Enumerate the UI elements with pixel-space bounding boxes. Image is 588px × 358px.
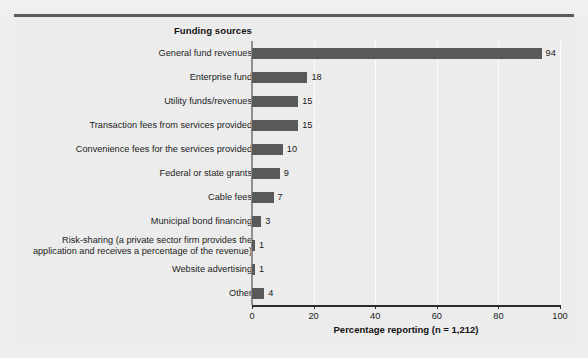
bar-value-label: 1 — [259, 264, 264, 275]
category-label: Cable fees — [208, 192, 252, 203]
bar[interactable] — [252, 72, 307, 83]
bar[interactable] — [252, 120, 298, 131]
chart-figure: uu uu u uu uu Funding sources General fu… — [0, 0, 588, 358]
x-axis-title: Percentage reporting (n = 1,212) — [252, 324, 560, 335]
category-label-column: Funding sources General fund revenuesEnt… — [14, 17, 252, 342]
bar-value-label: 15 — [302, 120, 312, 131]
gridline — [498, 41, 499, 305]
bar[interactable] — [252, 240, 255, 251]
chart-panel: Funding sources General fund revenuesEnt… — [14, 17, 574, 342]
bar-value-label: 9 — [284, 168, 289, 179]
axis-tick — [437, 305, 438, 309]
bar[interactable] — [252, 216, 261, 227]
axis-tick-label: 40 — [370, 311, 380, 321]
bar-value-label: 15 — [302, 96, 312, 107]
bar[interactable] — [252, 144, 283, 155]
axis-tick — [375, 305, 376, 309]
bar[interactable] — [252, 48, 542, 59]
bar[interactable] — [252, 264, 255, 275]
bar-value-label: 3 — [265, 216, 270, 227]
category-label: Transaction fees from services provided — [89, 120, 252, 131]
gridline — [437, 41, 438, 305]
bar-value-label: 10 — [287, 144, 297, 155]
bar-value-label: 1 — [259, 240, 264, 251]
category-label: Convenience fees for the services provid… — [76, 144, 252, 155]
bar-value-label: 7 — [278, 192, 283, 203]
category-label: Enterprise fund — [190, 72, 252, 83]
axis-tick-label: 20 — [308, 311, 318, 321]
axis-tick-label: 100 — [552, 311, 567, 321]
axis-tick-label: 0 — [249, 311, 254, 321]
bar-value-label: 4 — [268, 288, 273, 299]
value-axis-line — [252, 305, 560, 307]
category-label: Risk-sharing (a private sector firm prov… — [33, 235, 252, 256]
bar[interactable] — [252, 96, 298, 107]
category-label: Other — [229, 288, 252, 299]
axis-tick-label: 80 — [493, 311, 503, 321]
gridline — [560, 41, 561, 305]
plot-area: 9418151510973114 — [252, 41, 560, 305]
bar[interactable] — [252, 168, 280, 179]
axis-tick — [252, 305, 253, 309]
bar-value-label: 18 — [311, 72, 321, 83]
axis-tick — [314, 305, 315, 309]
gridline — [375, 41, 376, 305]
cut-off-caption-sliver: uu uu u uu uu — [0, 0, 588, 13]
axis-tick — [560, 305, 561, 309]
axis-tick — [498, 305, 499, 309]
axis-tick-label: 60 — [432, 311, 442, 321]
category-label: Municipal bond financing — [151, 216, 252, 227]
bar[interactable] — [252, 192, 274, 203]
category-axis-title: Funding sources — [174, 25, 252, 36]
category-label: General fund revenues — [159, 48, 252, 59]
category-label: Website advertising — [172, 264, 252, 275]
category-label: Federal or state grants — [160, 168, 252, 179]
cut-off-caption-text: uu uu u uu uu — [14, 0, 87, 1]
category-label: Utility funds/revenues — [164, 96, 252, 107]
bar[interactable] — [252, 288, 264, 299]
bar-value-label: 94 — [546, 48, 556, 59]
